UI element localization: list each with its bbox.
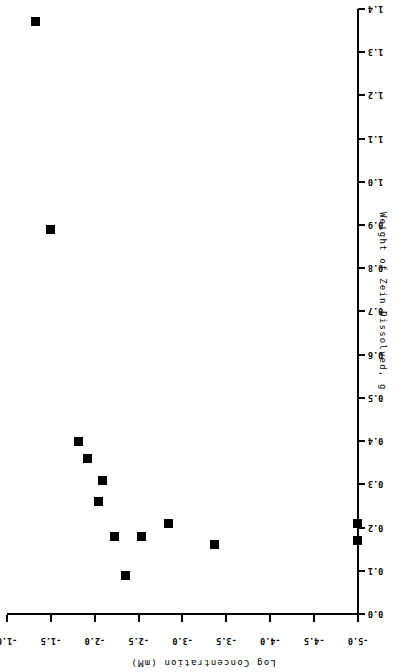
data-point-marker [110, 532, 119, 541]
y-tick-mark [358, 354, 365, 356]
data-point-marker [210, 540, 219, 549]
y-tick-mark [358, 181, 365, 183]
x-tick-mark [357, 615, 359, 622]
y-tick-label: 0.5 [368, 393, 404, 403]
x-tick-mark [50, 615, 52, 622]
y-tick-mark [358, 224, 365, 226]
data-point-marker [137, 532, 146, 541]
data-point-marker [46, 225, 55, 234]
data-point-marker [354, 519, 363, 528]
x-tick-mark [313, 615, 315, 622]
y-tick-mark [358, 397, 365, 399]
x-tick-label: -1.5 [31, 636, 71, 646]
y-tick-label: 1.0 [368, 177, 404, 187]
y-tick-label: 0.2 [368, 523, 404, 533]
y-tick-label: 0.3 [368, 479, 404, 489]
data-point-marker [354, 536, 363, 545]
x-tick-label: -3.0 [163, 636, 203, 646]
data-point-marker [74, 437, 83, 446]
y-tick-label: 0.4 [368, 436, 404, 446]
x-tick-mark [182, 615, 184, 622]
x-tick-mark [225, 615, 227, 622]
data-point-marker [94, 497, 103, 506]
y-tick-label: 0.0 [368, 609, 404, 619]
y-tick-label: 0.1 [368, 566, 404, 576]
y-tick-mark [358, 51, 365, 53]
x-tick-label: -5.0 [338, 636, 378, 646]
y-tick-mark [358, 8, 365, 10]
x-tick-label: -2.0 [75, 636, 115, 646]
x-tick-label: -4.0 [250, 636, 290, 646]
y-tick-mark [358, 311, 365, 313]
y-tick-mark [358, 440, 365, 442]
data-point-marker [83, 454, 92, 463]
y-tick-mark [358, 570, 365, 572]
x-tick-mark [138, 615, 140, 622]
y-tick-mark [358, 138, 365, 140]
x-tick-mark [269, 615, 271, 622]
plot-area: -5.0-4.5-4.0-3.5-3.0-2.5-2.0-1.5-1.0 0.0… [0, 0, 406, 672]
y-tick-label: 1.4 [368, 4, 404, 14]
x-tick-mark [6, 615, 8, 622]
data-point-marker [164, 519, 173, 528]
y-axis-title: Weight of Zein Dissolved, g [378, 212, 388, 391]
y-tick-mark [358, 483, 365, 485]
x-tick-label: -3.5 [206, 636, 246, 646]
y-tick-mark [358, 94, 365, 96]
chart-figure: -5.0-4.5-4.0-3.5-3.0-2.5-2.0-1.5-1.0 0.0… [0, 0, 406, 672]
data-point-marker [98, 476, 107, 485]
data-point-marker [121, 571, 130, 580]
y-tick-label: 1.1 [368, 134, 404, 144]
x-tick-label: -1.0 [0, 636, 27, 646]
x-tick-mark [94, 615, 96, 622]
y-tick-mark [358, 613, 365, 615]
y-tick-label: 1.3 [368, 47, 404, 57]
y-tick-label: 1.2 [368, 90, 404, 100]
x-tick-label: -4.5 [294, 636, 334, 646]
x-axis-title: Log Concentration (mM) [0, 658, 406, 668]
data-point-marker [31, 17, 40, 26]
x-tick-label: -2.5 [119, 636, 159, 646]
y-tick-mark [358, 267, 365, 269]
